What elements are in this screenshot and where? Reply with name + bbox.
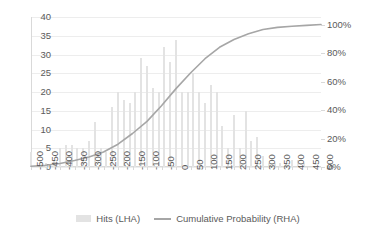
- x-axis-tick-mark: [220, 167, 221, 170]
- x-axis-tick-label: 150: [224, 154, 234, 170]
- x-axis-tick-mark: [162, 167, 163, 170]
- y-axis-right-tick-label: 100%: [327, 20, 371, 30]
- x-axis-tick-label: -100: [151, 151, 161, 170]
- x-axis-tick-mark: [31, 167, 32, 170]
- x-axis-tick-mark: [104, 167, 105, 170]
- x-axis-tick-label: -300: [93, 151, 103, 170]
- chart-legend: Hits (LHA) Cumulative Probability (RHA): [0, 213, 376, 224]
- x-axis-tick-mark: [249, 167, 250, 170]
- y-axis-right-tick-label: 60%: [327, 77, 371, 87]
- x-axis-tick-mark: [292, 167, 293, 170]
- cumulative-probability-line: [31, 17, 321, 167]
- legend-bar-swatch-icon: [76, 215, 91, 222]
- x-axis-tick-label: 400: [296, 154, 306, 170]
- x-axis-tick-label: 100: [209, 154, 219, 170]
- x-axis-tick-mark: [89, 167, 90, 170]
- legend-line-swatch-icon: [154, 218, 171, 220]
- x-axis-tick-label: 250: [253, 154, 263, 170]
- x-axis-tick-mark: [60, 167, 61, 170]
- x-axis-tick-label: -500: [35, 151, 45, 170]
- y-axis-right-tick-label: 20%: [327, 134, 371, 144]
- x-axis-tick-mark: [133, 167, 134, 170]
- legend-label-cumulative-probability: Cumulative Probability (RHA): [176, 213, 300, 224]
- x-axis-tick-label: -250: [108, 151, 118, 170]
- x-axis-tick-mark: [278, 167, 279, 170]
- x-axis-tick-label: -350: [79, 151, 89, 170]
- x-axis-tick-mark: [307, 167, 308, 170]
- x-axis-tick-label: 500: [325, 154, 335, 170]
- histogram-cumulative-chart: 4035302520151050 100%80%60%40%20%0% -500…: [0, 0, 376, 239]
- x-axis-tick-mark: [191, 167, 192, 170]
- x-axis-tick-label: -150: [137, 151, 147, 170]
- x-axis-tick-label: 50: [195, 159, 205, 170]
- x-axis-tick-label: -400: [64, 151, 74, 170]
- x-axis-tick-label: -450: [50, 151, 60, 170]
- x-axis-tick-mark: [46, 167, 47, 170]
- y-axis-right-tick-mark: [321, 53, 325, 54]
- x-axis-tick-mark: [176, 167, 177, 170]
- x-axis-tick-label: 450: [311, 154, 321, 170]
- x-axis-tick-label: 0: [180, 165, 190, 170]
- y-axis-right-tick-mark: [321, 82, 325, 83]
- x-axis-tick-mark: [75, 167, 76, 170]
- x-axis-tick-label: 350: [282, 154, 292, 170]
- y-axis-right-tick-label: 40%: [327, 105, 371, 115]
- x-axis-tick-label: -50: [166, 156, 176, 170]
- legend-item-cumulative-probability: Cumulative Probability (RHA): [154, 213, 300, 224]
- legend-item-hits: Hits (LHA): [76, 213, 140, 224]
- x-axis-tick-mark: [234, 167, 235, 170]
- x-axis-tick-mark: [321, 167, 322, 170]
- x-axis-tick-mark: [147, 167, 148, 170]
- y-axis-right-tick-label: 80%: [327, 48, 371, 58]
- legend-label-hits: Hits (LHA): [96, 213, 140, 224]
- y-axis-right-tick-mark: [321, 110, 325, 111]
- x-axis-tick-label: 200: [238, 154, 248, 170]
- y-axis-right-tick-mark: [321, 139, 325, 140]
- x-axis-tick-mark: [205, 167, 206, 170]
- x-axis-tick-mark: [118, 167, 119, 170]
- x-axis-tick-label: -200: [122, 151, 132, 170]
- cumulative-curve-path: [31, 25, 321, 167]
- x-axis-tick-mark: [263, 167, 264, 170]
- x-axis-tick-label: 300: [267, 154, 277, 170]
